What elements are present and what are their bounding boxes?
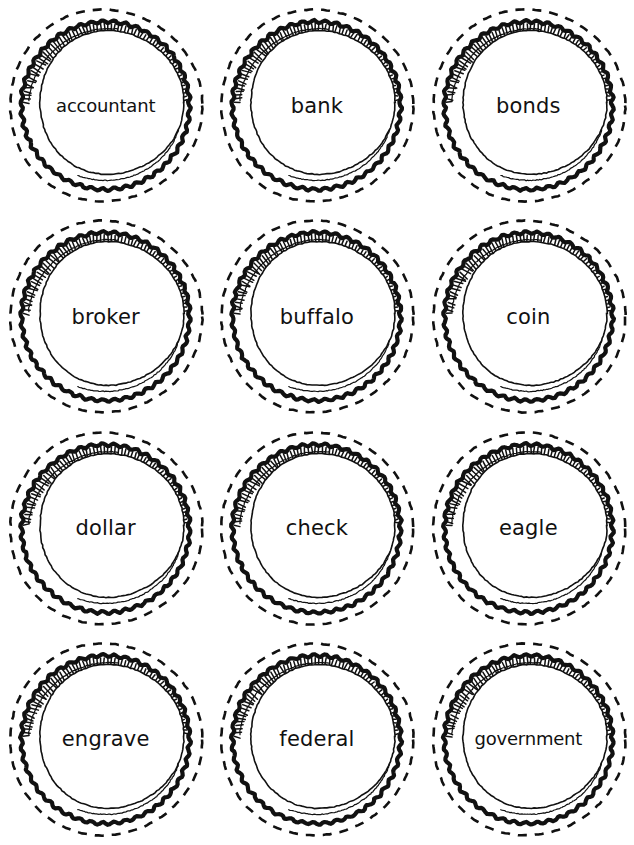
coin-icon [214, 637, 419, 842]
coin-card[interactable]: bank [211, 0, 422, 211]
worksheet-sheet: accountantbankbondsbrokerbuffalocoindoll… [0, 0, 634, 845]
coin-icon [426, 214, 631, 419]
coin-card[interactable]: government [423, 634, 634, 845]
coin-card[interactable]: eagle [423, 423, 634, 634]
coin-icon [426, 3, 631, 208]
coin-icon [3, 3, 208, 208]
coin-card[interactable]: accountant [0, 0, 211, 211]
coin-card[interactable]: federal [211, 634, 422, 845]
coin-card[interactable]: broker [0, 211, 211, 422]
coin-icon [3, 426, 208, 631]
coin-icon [214, 3, 419, 208]
coin-card-grid: accountantbankbondsbrokerbuffalocoindoll… [0, 0, 634, 845]
coin-icon [214, 426, 419, 631]
coin-card[interactable]: dollar [0, 423, 211, 634]
coin-card[interactable]: check [211, 423, 422, 634]
coin-icon [3, 637, 208, 842]
coin-card[interactable]: buffalo [211, 211, 422, 422]
coin-icon [426, 426, 631, 631]
coin-icon [3, 214, 208, 419]
coin-card[interactable]: coin [423, 211, 634, 422]
coin-card[interactable]: engrave [0, 634, 211, 845]
coin-card[interactable]: bonds [423, 0, 634, 211]
coin-icon [214, 214, 419, 419]
coin-icon [426, 637, 631, 842]
